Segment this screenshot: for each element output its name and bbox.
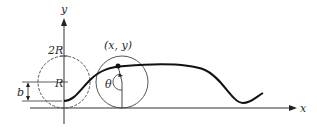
diagram-svg: x y 2R R b θ (x, y) [0,0,317,130]
label-theta: θ [105,78,112,91]
diagram-canvas: x y 2R R b θ (x, y) [0,0,317,130]
y-axis-label: y [60,3,68,16]
trochoid-curve [64,64,263,103]
label-point: (x, y) [104,39,132,52]
x-axis-label: x [300,102,307,115]
point-xy [116,64,121,69]
b-arrow-up-icon [26,82,30,87]
label-r: R [54,77,63,90]
b-arrow-down-icon [26,96,30,101]
label-2r: 2R [47,44,63,57]
y-axis-arrow-icon [61,18,67,26]
label-b: b [17,86,24,99]
x-axis-arrow-icon [289,105,297,111]
